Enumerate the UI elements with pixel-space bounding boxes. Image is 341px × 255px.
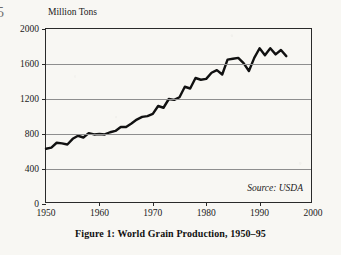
page-number: 5	[0, 6, 4, 20]
gridline	[46, 64, 311, 65]
gridline	[46, 169, 311, 170]
gridline	[46, 134, 311, 135]
x-axis-label: 1970	[143, 208, 162, 218]
gridline	[46, 99, 311, 100]
y-axis-tick	[42, 134, 46, 135]
x-axis-label: 2000	[304, 208, 323, 218]
y-axis-label: 1200	[20, 94, 39, 104]
source-note: Source: USDA	[247, 183, 303, 193]
y-axis-label: 800	[25, 129, 39, 139]
figure-page: 5 Million Tons Source: USDA 040080012001…	[0, 0, 341, 255]
x-axis-label: 1950	[37, 208, 56, 218]
x-axis-label: 1980	[197, 208, 216, 218]
data-line-world-grain-production	[46, 29, 313, 204]
x-axis-label: 1990	[250, 208, 269, 218]
y-axis-tick	[42, 169, 46, 170]
x-axis-tick	[153, 202, 154, 206]
y-axis-title: Million Tons	[48, 7, 97, 17]
figure-caption: Figure 1: World Grain Production, 1950–9…	[0, 228, 341, 239]
y-axis-tick	[42, 64, 46, 65]
y-axis-tick	[42, 204, 46, 205]
x-axis-label: 1960	[90, 208, 109, 218]
y-axis-label: 1600	[20, 59, 39, 69]
y-axis-tick	[42, 99, 46, 100]
x-axis-tick	[206, 202, 207, 206]
plot-area: Source: USDA 040080012001600200019501960…	[45, 28, 312, 203]
x-axis-tick	[260, 202, 261, 206]
y-axis-label: 400	[25, 164, 39, 174]
y-axis-tick	[42, 29, 46, 30]
x-axis-tick	[99, 202, 100, 206]
y-axis-label: 2000	[20, 24, 39, 34]
